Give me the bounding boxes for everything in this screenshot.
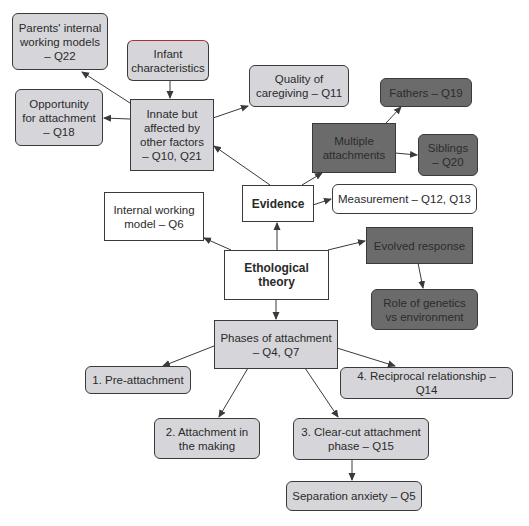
node-ethological-theory: Ethological theory <box>224 250 329 300</box>
node-label: Evolved response <box>374 239 465 253</box>
node-siblings: Siblings – Q20 <box>418 134 478 176</box>
node-separation-anxiety: Separation anxiety – Q5 <box>286 481 422 511</box>
node-pre-attachment: 1. Pre-attachment <box>85 366 191 394</box>
node-role-of-genetics: Role of genetics vs environment <box>371 289 478 330</box>
node-label: 1. Pre-attachment <box>92 373 183 387</box>
node-label: 2. Attachment in the making <box>166 425 248 453</box>
node-label: Fathers – Q19 <box>389 86 463 100</box>
node-label: Quality of caregiving – Q11 <box>256 72 342 100</box>
node-evolved-response: Evolved response <box>366 227 473 264</box>
node-opportunity-for-attachment: Opportunity for attachment – Q18 <box>15 89 103 146</box>
node-quality-of-caregiving: Quality of caregiving – Q11 <box>249 65 349 107</box>
node-label: Measurement – Q12, Q13 <box>338 192 471 206</box>
node-phases-of-attachment: Phases of attachment – Q4, Q7 <box>214 320 338 369</box>
node-parents-internal-working-models: Parents' internal working models – Q22 <box>12 13 108 70</box>
node-label: Opportunity for attachment – Q18 <box>22 97 96 139</box>
node-label: Role of genetics vs environment <box>383 296 465 324</box>
node-label: Siblings – Q20 <box>428 141 468 169</box>
concept-map: Parents' internal working models – Q22 I… <box>0 0 529 526</box>
node-label: Evidence <box>252 197 305 211</box>
node-label: Parents' internal working models – Q22 <box>19 21 102 63</box>
node-label: Ethological theory <box>244 261 309 289</box>
node-attachment-in-the-making: 2. Attachment in the making <box>154 418 260 459</box>
node-label: 4. Reciprocal relationship – Q14 <box>345 369 508 397</box>
node-label: 3. Clear-cut attachment phase – Q15 <box>301 425 421 453</box>
node-measurement: Measurement – Q12, Q13 <box>332 184 477 214</box>
node-internal-working-model: Internal working model – Q6 <box>104 192 204 241</box>
node-label: Internal working model – Q6 <box>113 203 194 231</box>
node-label: Separation anxiety – Q5 <box>292 489 415 503</box>
node-infant-characteristics: Infant characteristics <box>127 40 209 81</box>
node-label: Infant characteristics <box>131 47 205 75</box>
node-multiple-attachments: Multiple attachments <box>312 123 396 173</box>
node-label: Phases of attachment – Q4, Q7 <box>220 331 331 359</box>
node-clear-cut-attachment: 3. Clear-cut attachment phase – Q15 <box>293 418 429 460</box>
node-label: Innate but affected by other factors – Q… <box>140 107 204 163</box>
node-fathers: Fathers – Q19 <box>380 78 472 107</box>
node-reciprocal-relationship: 4. Reciprocal relationship – Q14 <box>340 367 513 399</box>
node-innate-but-affected: Innate but affected by other factors – Q… <box>130 99 214 171</box>
node-label: Multiple attachments <box>323 134 386 162</box>
node-evidence: Evidence <box>242 185 314 222</box>
